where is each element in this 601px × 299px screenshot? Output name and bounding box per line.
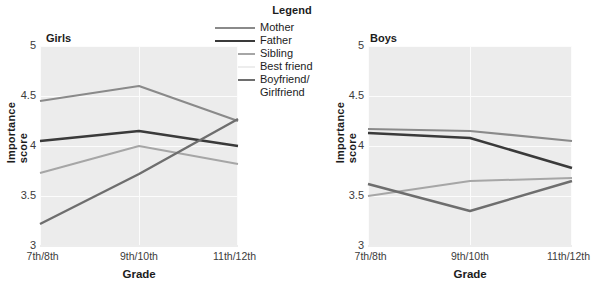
legend-entry-label: Best friend xyxy=(260,60,313,73)
x-axis-tick-label: 7th/8th xyxy=(355,250,387,262)
legend-entry-label: Father xyxy=(260,34,292,47)
panel-girls-plot-area: 54.543.53 7th/8th9th/10th11th/12th Grade xyxy=(40,46,238,246)
panel-girls-title: Girls xyxy=(46,32,71,44)
y-axis-tick-label: 4.5 xyxy=(338,89,364,101)
x-axis-tick-label: 9th/10th xyxy=(120,250,158,262)
panel-boys-y-axis-label: Importance score xyxy=(334,102,358,163)
panel-girls-x-axis-label: Grade xyxy=(123,268,156,280)
legend-entry-label: Mother xyxy=(260,21,294,34)
y-axis-tick-label: 5 xyxy=(6,39,36,51)
x-axis-tick-label: 11th/12th xyxy=(213,250,256,262)
series-line xyxy=(40,146,238,173)
x-axis-tick-label: 7th/8th xyxy=(27,250,59,262)
series-lines xyxy=(40,46,238,246)
legend-swatch-line-icon xyxy=(215,21,255,34)
y-axis-tick-label: 3.5 xyxy=(6,189,36,201)
y-axis-tick-label: 4.5 xyxy=(6,89,36,101)
y-axis-tick-label: 4 xyxy=(338,139,364,151)
panel-boys-title: Boys xyxy=(370,32,397,44)
panel-girls-y-axis-label: Importance score xyxy=(5,102,29,163)
series-line xyxy=(40,86,238,121)
y-axis-tick-label: 5 xyxy=(338,39,364,51)
x-axis-tick-label: 9th/10th xyxy=(451,250,489,262)
panel-boys-x-axis-label: Grade xyxy=(454,268,487,280)
y-axis-tick-label: 4 xyxy=(6,139,36,151)
series-lines xyxy=(368,46,572,246)
legend-entry[interactable]: Mother xyxy=(215,21,355,34)
series-line xyxy=(368,181,572,211)
series-line xyxy=(40,119,238,224)
panel-boys-plot-area: 54.543.53 7th/8th9th/10th11th/12th Grade xyxy=(368,46,572,246)
legend-entry-label: Boyfriend/ xyxy=(260,73,310,86)
legend-title: Legend xyxy=(215,4,355,16)
x-axis-tick-label: 11th/12th xyxy=(547,250,590,262)
series-line xyxy=(40,131,238,146)
panel-boys-plot xyxy=(368,46,572,246)
figure-root: Legend MotherFatherSiblingBest friendBoy… xyxy=(0,0,601,299)
y-axis-tick-label: 3.5 xyxy=(338,189,364,201)
panel-girls-plot xyxy=(40,46,238,246)
legend-entry-label: Sibling xyxy=(260,47,293,60)
